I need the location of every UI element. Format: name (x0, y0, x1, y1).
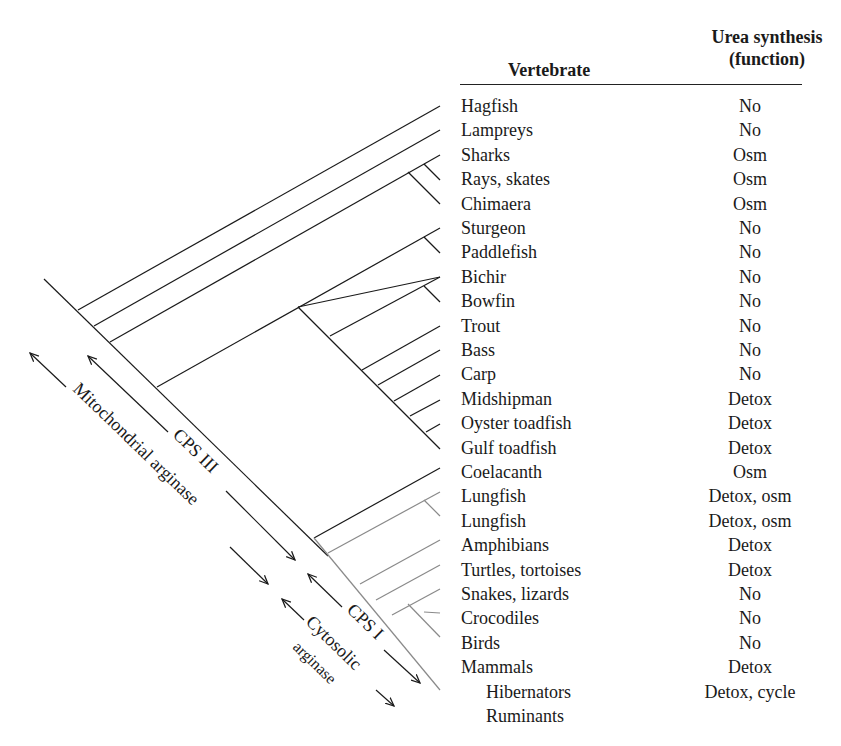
urea-function: Osm (660, 143, 840, 167)
vertebrate-name: Mammals (461, 655, 533, 679)
table-row: HibernatorsDetox, cycle (460, 680, 841, 704)
urea-function: No (660, 240, 840, 264)
header-vertebrate: Vertebrate (508, 60, 590, 81)
urea-function: No (660, 314, 840, 338)
table-row: LungfishDetox, osm (460, 509, 841, 533)
table-row: BirdsNo (460, 631, 841, 655)
vertebrate-name: Lungfish (461, 509, 526, 533)
vertebrate-name: Rays, skates (461, 167, 550, 191)
vertebrate-name: Crocodiles (461, 606, 539, 630)
table-row: CarpNo (460, 362, 841, 386)
urea-function: Detox, osm (660, 484, 840, 508)
urea-function: No (660, 606, 840, 630)
urea-function: No (660, 338, 840, 362)
vertebrate-name: Coelacanth (461, 460, 542, 484)
urea-function: Detox, cycle (660, 680, 840, 704)
table-row: TroutNo (460, 314, 841, 338)
header-rule (460, 84, 802, 85)
urea-function: Detox (660, 411, 840, 435)
table-row: BassNo (460, 338, 841, 362)
vertebrate-name: Bass (461, 338, 495, 362)
table-row: CrocodilesNo (460, 606, 841, 630)
table-row: HagfishNo (460, 94, 841, 118)
vertebrate-name: Bichir (461, 265, 506, 289)
table-row: Turtles, tortoisesDetox (460, 558, 841, 582)
tree-branches-gray (314, 492, 440, 690)
vertebrate-name: Ruminants (486, 704, 564, 728)
vertebrate-name: Lampreys (461, 118, 533, 142)
vertebrate-name: Bowfin (461, 289, 515, 313)
header-function-line1: Urea synthesis (702, 26, 832, 48)
table-row: PaddlefishNo (460, 240, 841, 264)
table-row: SharksOsm (460, 143, 841, 167)
urea-function: Detox (660, 558, 840, 582)
cps1-arrow-left (308, 574, 342, 607)
table-row: LungfishDetox, osm (460, 484, 841, 508)
vertebrate-name: Amphibians (461, 533, 549, 557)
vertebrate-name: Lungfish (461, 484, 526, 508)
cps3-arrow-right (226, 491, 295, 560)
cyto-arginase-arrow-right (376, 690, 394, 706)
urea-function: Detox (660, 533, 840, 557)
table-row: Snakes, lizardsNo (460, 582, 841, 606)
mito-arginase-arrow-right (230, 547, 268, 584)
cps1-label: CPS I (343, 599, 387, 643)
table-row: Ruminants (460, 704, 841, 728)
urea-function: No (660, 265, 840, 289)
vertebrate-name: Chimaera (461, 192, 531, 216)
urea-function: No (660, 631, 840, 655)
urea-function: Detox, osm (660, 509, 840, 533)
urea-function: Osm (660, 167, 840, 191)
table-row: Gulf toadfishDetox (460, 436, 841, 460)
tree-branches-dark (44, 106, 440, 556)
cps1-arrow-right (384, 650, 420, 683)
table-row: SturgeonNo (460, 216, 841, 240)
urea-function: No (660, 216, 840, 240)
table-row: ChimaeraOsm (460, 192, 841, 216)
table-row: Oyster toadfishDetox (460, 411, 841, 435)
vertebrate-name: Trout (461, 314, 500, 338)
urea-function: No (660, 362, 840, 386)
table-row: AmphibiansDetox (460, 533, 841, 557)
urea-function: No (660, 582, 840, 606)
urea-function: No (660, 94, 840, 118)
urea-function: Detox (660, 655, 840, 679)
vertebrate-name: Sturgeon (461, 216, 526, 240)
urea-function: No (660, 118, 840, 142)
mito-arginase-arrow-left (30, 353, 66, 387)
table-row: BowfinNo (460, 289, 841, 313)
urea-function: Detox (660, 387, 840, 411)
vertebrate-name: Hagfish (461, 94, 518, 118)
vertebrate-name: Turtles, tortoises (461, 558, 581, 582)
urea-function: Detox (660, 436, 840, 460)
table-row: BichirNo (460, 265, 841, 289)
vertebrate-name: Oyster toadfish (461, 411, 571, 435)
cyto-arginase-arrow-left (282, 599, 304, 620)
table-row: LampreysNo (460, 118, 841, 142)
table-row: CoelacanthOsm (460, 460, 841, 484)
table-row: Rays, skatesOsm (460, 167, 841, 191)
vertebrate-name: Hibernators (486, 680, 571, 704)
urea-function: Osm (660, 460, 840, 484)
header-urea-synthesis: Urea synthesis (function) (702, 26, 832, 70)
vertebrate-name: Birds (461, 631, 500, 655)
vertebrate-name: Carp (461, 362, 496, 386)
urea-function: No (660, 289, 840, 313)
vertebrate-name: Snakes, lizards (461, 582, 569, 606)
vertebrate-name: Midshipman (461, 387, 552, 411)
vertebrate-name: Gulf toadfish (461, 436, 556, 460)
header-function-line2: (function) (702, 48, 832, 70)
urea-function: Osm (660, 192, 840, 216)
table-row: MammalsDetox (460, 655, 841, 679)
table-row: MidshipmanDetox (460, 387, 841, 411)
vertebrate-name: Sharks (461, 143, 510, 167)
vertebrate-name: Paddlefish (461, 240, 537, 264)
